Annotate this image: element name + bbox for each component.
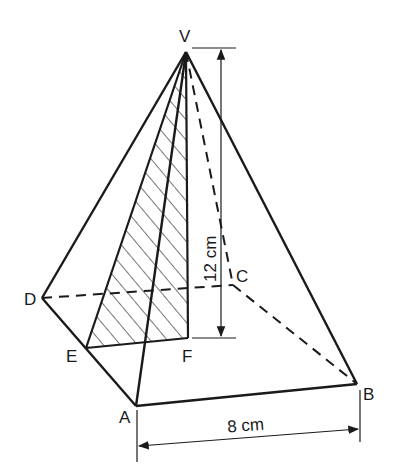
vertex-label-v: V (179, 27, 191, 46)
vertex-label-e: E (66, 347, 77, 366)
vertex-label-a: A (119, 408, 131, 427)
vertex-label-c: C (236, 267, 248, 286)
vertex-label-b: B (363, 385, 374, 404)
visible-edges (42, 52, 357, 406)
vertex-label-d: D (24, 290, 36, 309)
vertex-label-f: F (182, 347, 192, 366)
height-label: 12 cm (201, 236, 220, 282)
base-edge-label: 8 cm (226, 415, 264, 437)
pyramid-diagram: 12 cm 8 cm V A B C D E F (0, 0, 399, 474)
